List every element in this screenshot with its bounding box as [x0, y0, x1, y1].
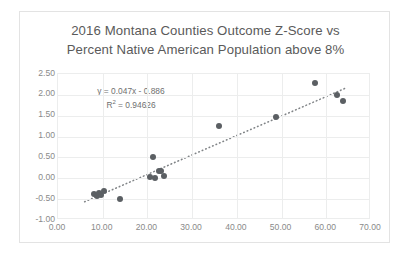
trendline-equation-annotation: y = 0.047x - 0.886 R2 = 0.94626 — [72, 86, 190, 111]
y-axis-tick-label: 1.50 — [21, 110, 55, 119]
gridline-horizontal — [58, 178, 369, 179]
r-squared-value: R2 = 0.94626 — [72, 97, 190, 111]
gridline-horizontal — [58, 116, 369, 117]
x-axis-tick-label: 20.00 — [126, 222, 166, 232]
y-axis-tick-label: -0.50 — [21, 194, 55, 203]
plot-area: y = 0.047x - 0.886 R2 = 0.94626 — [57, 73, 370, 219]
gridline-horizontal — [58, 95, 369, 96]
chart-title: 2016 Montana Counties Outcome Z-Score vs… — [20, 21, 391, 59]
chart-title-line-2: Percent Native American Population above… — [20, 40, 391, 59]
x-axis-tick-label: 50.00 — [261, 222, 301, 232]
gridline-vertical — [147, 74, 148, 218]
data-point — [152, 175, 158, 181]
data-point — [273, 114, 279, 120]
y-axis-tick-label: 1.00 — [21, 131, 55, 140]
data-point — [340, 98, 346, 104]
y-axis-tick-labels: 2.502.001.501.000.500.00-0.50-1.00 — [20, 73, 55, 219]
chart-card: 2016 Montana Counties Outcome Z-Score vs… — [19, 11, 390, 243]
data-point — [312, 80, 318, 86]
y-axis-tick-label: 2.50 — [21, 69, 55, 78]
gridline-horizontal — [58, 157, 369, 158]
data-point — [101, 188, 107, 194]
x-axis-tick-label: 30.00 — [171, 222, 211, 232]
gridline-vertical — [326, 74, 327, 218]
gridline-vertical — [237, 74, 238, 218]
data-point — [216, 123, 222, 129]
chart-title-line-1: 2016 Montana Counties Outcome Z-Score vs — [20, 21, 391, 40]
y-axis-tick-label: 0.50 — [21, 152, 55, 161]
y-axis-tick-label: 0.00 — [21, 173, 55, 182]
x-axis-tick-labels: 0.0010.0020.0030.0040.0050.0060.0070.00 — [57, 222, 370, 236]
gridline-horizontal — [58, 137, 369, 138]
x-axis-tick-label: 10.00 — [82, 222, 122, 232]
data-point — [334, 92, 340, 98]
r-squared-number: = 0.94626 — [116, 100, 156, 110]
data-point — [117, 196, 123, 202]
x-axis-tick-label: 40.00 — [216, 222, 256, 232]
gridline-vertical — [192, 74, 193, 218]
x-axis-tick-label: 60.00 — [305, 222, 345, 232]
data-point — [150, 154, 156, 160]
x-axis-tick-label: 0.00 — [37, 222, 77, 232]
x-axis-tick-label: 70.00 — [350, 222, 390, 232]
gridline-horizontal — [58, 199, 369, 200]
gridline-vertical — [282, 74, 283, 218]
y-axis-tick-label: 2.00 — [21, 89, 55, 98]
